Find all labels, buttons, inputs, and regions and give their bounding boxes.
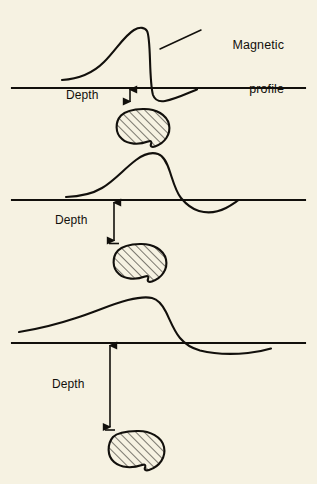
callout-leader-line (160, 30, 201, 49)
magnetic-curve-2 (66, 153, 238, 212)
magnetic-profile-figure: Magnetic profile Depth Depth Depth (0, 0, 317, 484)
buried-object-1 (117, 109, 170, 147)
depth-label-1: Depth (66, 89, 99, 103)
magnetic-curve-3 (19, 297, 271, 354)
buried-object-3 (109, 431, 165, 470)
buried-object-2 (114, 244, 167, 282)
depth-label-3: Depth (52, 378, 85, 392)
depth-label-2: Depth (55, 214, 88, 228)
callout-line-2: profile (198, 82, 284, 97)
callout-line-1: Magnetic (198, 38, 284, 53)
magnetic-profile-callout: Magnetic profile (198, 9, 284, 125)
